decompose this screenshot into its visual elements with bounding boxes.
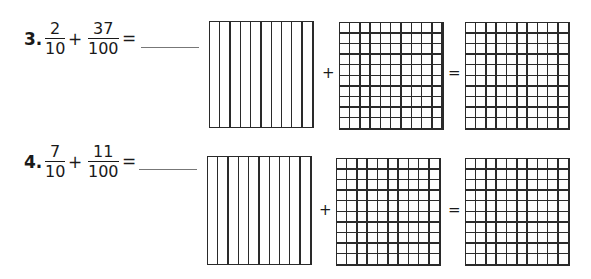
equals-operator: =	[122, 151, 136, 171]
denominator: 10	[45, 40, 65, 57]
equals-sign: =	[448, 64, 461, 82]
problem-number: 4.	[24, 152, 42, 172]
tenths-grid	[209, 21, 314, 128]
denominator: 100	[88, 40, 119, 57]
fraction-2: 11 100	[88, 143, 119, 180]
equals-sign: =	[448, 201, 461, 219]
result-grid[interactable]	[465, 22, 570, 130]
plus-sign: +	[322, 64, 335, 82]
hundredths-grid	[339, 22, 444, 130]
denominator: 100	[88, 163, 119, 180]
numerator: 37	[93, 20, 113, 37]
numerator: 11	[93, 143, 113, 160]
numerator: 2	[50, 20, 60, 37]
fraction-1: 7 10	[45, 143, 65, 180]
denominator: 10	[45, 163, 65, 180]
problem-4: 4. 7 10 + 11 100 = + =	[0, 135, 591, 270]
fraction-2: 37 100	[88, 20, 119, 57]
hundredths-grid	[336, 158, 441, 266]
fraction-1: 2 10	[45, 20, 65, 57]
answer-blank[interactable]	[139, 169, 197, 170]
equals-operator: =	[122, 28, 136, 48]
plus-operator: +	[68, 29, 82, 49]
problem-3: 3. 2 10 + 37 100 = + =	[0, 0, 591, 135]
result-grid[interactable]	[465, 158, 570, 266]
answer-blank[interactable]	[141, 47, 199, 48]
tenths-grid	[207, 156, 312, 265]
problem-number: 3.	[24, 29, 42, 49]
plus-sign: +	[319, 201, 332, 219]
plus-operator: +	[68, 152, 82, 172]
numerator: 7	[50, 143, 60, 160]
